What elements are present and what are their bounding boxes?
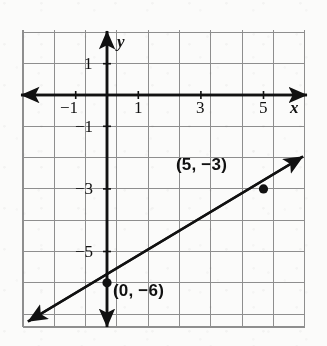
y-tick-label-neg1: −1 xyxy=(75,118,93,135)
graph-figure: y x −1 1 3 5 1 −1 −3 −5 (5, −3) (0, −6) xyxy=(0,0,327,346)
y-tick-label-neg3: −3 xyxy=(75,180,93,197)
y-tick-label-neg5: −5 xyxy=(75,243,93,260)
point-label-5-neg3: (5, −3) xyxy=(176,156,227,173)
x-axis-label: x xyxy=(290,99,299,116)
point-label-0-neg6: (0, −6) xyxy=(113,282,164,299)
y-axis-label: y xyxy=(117,33,125,50)
y-tick-label-1: 1 xyxy=(84,55,93,72)
point-marker-0-neg6 xyxy=(102,278,111,287)
point-marker-5-neg3 xyxy=(259,184,268,193)
plotted-line xyxy=(28,157,303,322)
x-tick-label-5: 5 xyxy=(259,99,268,116)
x-tick-label-1: 1 xyxy=(134,99,143,116)
x-tick-label-3: 3 xyxy=(196,99,205,116)
x-tick-label-neg1: −1 xyxy=(60,99,78,116)
